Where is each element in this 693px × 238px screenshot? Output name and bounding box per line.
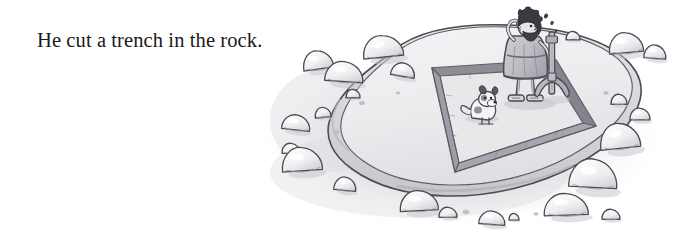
illustration-canvas: [0, 0, 693, 238]
boulder: [602, 209, 622, 222]
boulder: [643, 44, 668, 64]
rock-trench-illustration: [0, 0, 693, 238]
boulder: [566, 31, 581, 42]
storybook-page: He cut a trench in the rock.: [0, 0, 693, 238]
